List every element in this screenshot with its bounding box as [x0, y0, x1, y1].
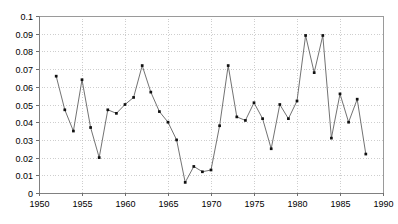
data-point-marker	[124, 103, 127, 106]
x-tick-label: 1965	[158, 199, 178, 209]
data-point-marker	[132, 96, 135, 99]
y-tick-label: 0	[28, 189, 33, 199]
y-tick-label: 0.01	[15, 171, 33, 181]
y-tick-label: 0.07	[15, 65, 33, 75]
y-tick-label: 0.02	[15, 154, 33, 164]
data-point-marker	[253, 101, 256, 104]
data-point-marker	[141, 64, 144, 67]
data-point-marker	[201, 170, 204, 173]
y-tick-label: 0.09	[15, 30, 33, 40]
gridlines	[39, 16, 383, 194]
data-point-marker	[115, 112, 118, 115]
y-tick-label: 0.06	[15, 83, 33, 93]
data-series-group	[56, 35, 366, 182]
data-point-marker	[81, 78, 84, 81]
data-point-marker	[364, 153, 367, 156]
y-tick-label: 0.1	[20, 12, 33, 22]
data-point-marker	[192, 165, 195, 168]
x-axis-tick-labels: 195019551960196519701975198019851990	[29, 199, 393, 209]
data-point-marker	[339, 93, 342, 96]
data-point-marker	[287, 117, 290, 120]
x-tick-label: 1980	[287, 199, 307, 209]
y-tick-label: 0.04	[15, 118, 33, 128]
data-point-markers	[55, 34, 367, 184]
data-point-marker	[321, 34, 324, 37]
data-point-marker	[167, 121, 170, 124]
data-point-marker	[270, 147, 273, 150]
series-line-1	[56, 35, 366, 182]
x-tick-label: 1990	[373, 199, 393, 209]
data-point-marker	[235, 116, 238, 119]
x-tick-label: 1970	[201, 199, 221, 209]
data-point-marker	[356, 98, 359, 101]
data-point-marker	[278, 103, 281, 106]
x-tick-label: 1955	[72, 199, 92, 209]
data-point-marker	[149, 91, 152, 94]
data-point-marker	[218, 124, 221, 127]
data-point-marker	[261, 117, 264, 120]
y-axis-tick-labels: 00.010.020.030.040.050.060.070.080.090.1	[15, 12, 33, 199]
data-point-marker	[347, 121, 350, 124]
data-point-marker	[106, 108, 109, 111]
y-tick-label: 0.05	[15, 101, 33, 111]
line-chart: 00.010.020.030.040.050.060.070.080.090.1…	[0, 0, 398, 224]
x-tick-label: 1975	[244, 199, 264, 209]
data-point-marker	[158, 110, 161, 113]
data-point-marker	[330, 137, 333, 140]
data-point-marker	[175, 139, 178, 142]
data-point-marker	[210, 169, 213, 172]
data-point-marker	[184, 181, 187, 184]
data-point-marker	[304, 34, 307, 37]
x-tick-label: 1960	[115, 199, 135, 209]
x-tick-label: 1985	[330, 199, 350, 209]
data-point-marker	[55, 75, 58, 78]
data-point-marker	[89, 126, 92, 129]
data-point-marker	[72, 130, 75, 133]
data-point-marker	[98, 156, 101, 159]
data-point-marker	[313, 71, 316, 74]
data-point-marker	[227, 64, 230, 67]
data-point-marker	[244, 119, 247, 122]
x-tick-label: 1950	[29, 199, 49, 209]
chart-canvas: 00.010.020.030.040.050.060.070.080.090.1…	[0, 0, 398, 224]
y-tick-label: 0.03	[15, 136, 33, 146]
y-tick-label: 0.08	[15, 47, 33, 57]
data-point-marker	[63, 108, 66, 111]
data-point-marker	[296, 100, 299, 103]
